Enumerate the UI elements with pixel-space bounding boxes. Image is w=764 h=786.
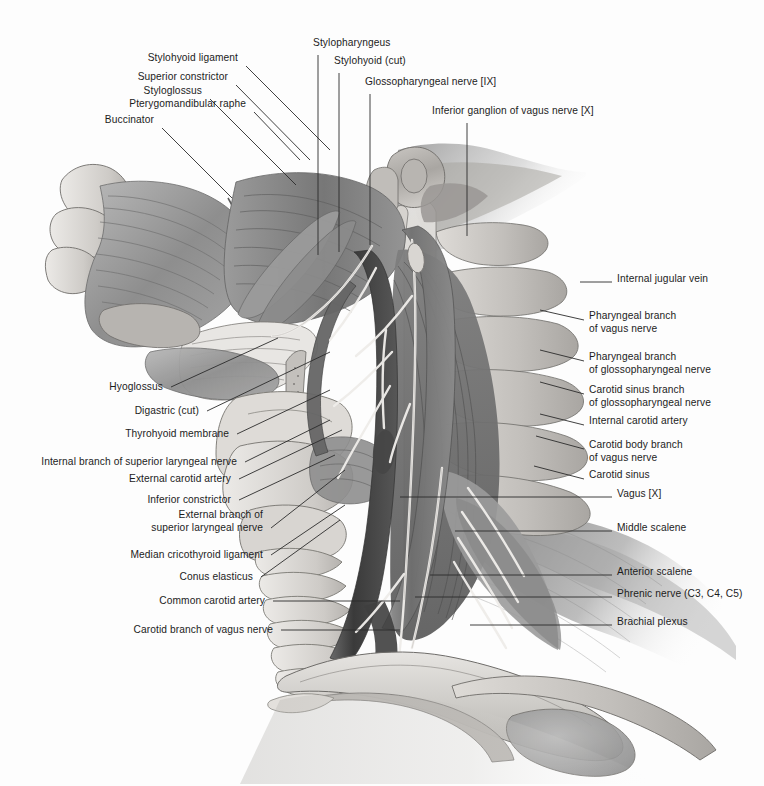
callout-label-of-glossopharyngeal-nerve: of glossopharyngeal nerve — [589, 364, 711, 376]
callout-label-buccinator: Buccinator — [105, 114, 154, 126]
callout-label-pharyngeal-branch: Pharyngeal branch — [589, 351, 676, 363]
callout-label-external-carotid-artery: External carotid artery — [129, 473, 231, 485]
callout-label-of-vagus-nerve: of vagus nerve — [589, 323, 657, 335]
callout-label-common-carotid-artery: Common carotid artery — [159, 595, 265, 607]
callout-label-conus-elasticus: Conus elasticus — [180, 571, 253, 583]
callout-label-internal-jugular-vein: Internal jugular vein — [617, 273, 708, 285]
callout-label-internal-branch-of-superior-laryngeal-nerve: Internal branch of superior laryngeal ne… — [41, 456, 237, 468]
callout-label-phrenic-nerve-c3-c4-c5: Phrenic nerve (C3, C4, C5) — [617, 588, 743, 600]
callout-label-brachial-plexus: Brachial plexus — [617, 616, 688, 628]
callout-label-digastric-cut: Digastric (cut) — [135, 405, 199, 417]
callout-label-pharyngeal-branch: Pharyngeal branch — [589, 310, 676, 322]
callout-label-glossopharyngeal-nerve: Glossopharyngeal nerve [IX] — [365, 76, 496, 88]
callout-label-of-vagus-nerve: of vagus nerve — [589, 452, 657, 464]
callout-label-stylopharyngeus: Stylopharyngeus — [313, 37, 390, 49]
callout-label-superior-constrictor: Superior constrictor — [138, 71, 228, 83]
callout-label-vagus: Vagus [X] — [617, 488, 661, 500]
callout-label-anterior-scalene: Anterior scalene — [617, 566, 692, 578]
callout-label-stylohyoid-cut: Stylohyoid (cut) — [334, 55, 406, 67]
callout-label-thyrohyoid-membrane: Thyrohyoid membrane — [125, 428, 229, 440]
callout-label-median-cricothyroid-ligament: Median cricothyroid ligament — [130, 549, 263, 561]
label-layer: Stylohyoid ligamentSuperior constrictorS… — [0, 0, 764, 786]
callout-label-styloglossus: Styloglossus — [144, 85, 202, 97]
callout-label-carotid-sinus-branch: Carotid sinus branch — [589, 384, 684, 396]
callout-label-superior-laryngeal-nerve: superior laryngeal nerve — [151, 522, 263, 534]
callout-label-stylohyoid-ligament: Stylohyoid ligament — [148, 52, 238, 64]
callout-label-carotid-body-branch: Carotid body branch — [589, 439, 683, 451]
callout-label-carotid-sinus: Carotid sinus — [589, 469, 650, 481]
anatomy-plate: Stylohyoid ligamentSuperior constrictorS… — [0, 0, 764, 786]
callout-label-middle-scalene: Middle scalene — [617, 522, 686, 534]
callout-label-carotid-branch-of-vagus-nerve: Carotid branch of vagus nerve — [134, 624, 273, 636]
callout-label-of-glossopharyngeal-nerve: of glossopharyngeal nerve — [589, 397, 711, 409]
callout-label-external-branch-of: External branch of — [178, 509, 263, 521]
callout-label-internal-carotid-artery: Internal carotid artery — [589, 415, 688, 427]
callout-label-pterygomandibular-raphe: Pterygomandibular raphe — [129, 98, 246, 110]
callout-label-hyoglossus: Hyoglossus — [109, 381, 163, 393]
callout-label-inferior-ganglion-of-vagus-nerve: Inferior ganglion of vagus nerve [X] — [432, 105, 594, 117]
callout-label-inferior-constrictor: Inferior constrictor — [147, 494, 231, 506]
